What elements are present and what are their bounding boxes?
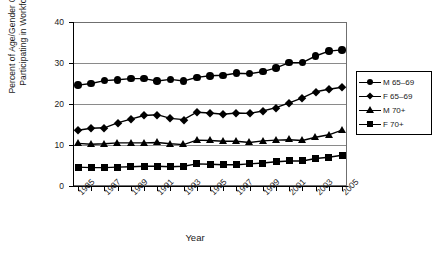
data-point bbox=[113, 139, 121, 146]
data-point bbox=[166, 140, 174, 147]
data-point bbox=[325, 154, 332, 161]
legend-marker bbox=[367, 79, 373, 85]
data-point bbox=[312, 155, 319, 162]
data-point bbox=[207, 161, 214, 168]
legend-marker-triangle-icon bbox=[359, 104, 381, 116]
legend-item: F 65–69 bbox=[359, 89, 428, 103]
legend-marker bbox=[367, 121, 373, 127]
data-point bbox=[338, 126, 346, 133]
data-point bbox=[325, 131, 333, 138]
legend-item: M 65–69 bbox=[359, 75, 428, 89]
legend-label: F 70+ bbox=[381, 120, 404, 129]
legend-item: F 70+ bbox=[359, 117, 428, 131]
legend-marker-square-icon bbox=[359, 118, 381, 130]
data-point bbox=[233, 69, 241, 77]
data-point bbox=[219, 137, 227, 144]
data-point bbox=[127, 75, 135, 83]
data-point bbox=[339, 152, 346, 159]
data-point bbox=[127, 163, 134, 170]
data-point bbox=[100, 140, 108, 147]
data-point bbox=[232, 137, 240, 144]
data-point bbox=[74, 81, 82, 89]
legend-marker bbox=[366, 93, 373, 100]
data-point bbox=[153, 138, 161, 145]
legend-marker bbox=[366, 106, 374, 113]
x-axis-title: Year bbox=[0, 232, 390, 243]
data-point bbox=[88, 164, 95, 171]
data-point bbox=[298, 136, 306, 143]
data-point bbox=[233, 161, 240, 168]
legend: M 65–69F 65–69M 70+F 70+ bbox=[356, 71, 432, 135]
data-point bbox=[193, 74, 201, 82]
data-point bbox=[246, 160, 253, 167]
data-point bbox=[338, 46, 346, 54]
data-point bbox=[179, 140, 187, 147]
legend-marker-circle-icon bbox=[359, 76, 381, 88]
data-point bbox=[285, 135, 293, 142]
data-point bbox=[259, 160, 266, 167]
data-point bbox=[286, 157, 293, 164]
legend-marker-diamond-icon bbox=[359, 90, 381, 102]
data-point bbox=[167, 163, 174, 170]
data-point bbox=[259, 137, 267, 144]
data-point bbox=[154, 163, 161, 170]
data-point bbox=[299, 157, 306, 164]
data-point bbox=[75, 164, 82, 171]
chart-figure: Percent of Age/Gender Group Participatin… bbox=[0, 0, 438, 258]
data-point bbox=[127, 139, 135, 146]
data-point bbox=[193, 160, 200, 167]
data-point bbox=[245, 138, 253, 145]
data-point bbox=[74, 139, 82, 146]
data-point bbox=[114, 76, 122, 84]
data-point bbox=[311, 133, 319, 140]
data-point bbox=[259, 68, 267, 76]
legend-item: M 70+ bbox=[359, 103, 428, 117]
data-point bbox=[141, 163, 148, 170]
data-point bbox=[140, 139, 148, 146]
data-point bbox=[325, 47, 333, 55]
data-point bbox=[220, 161, 227, 168]
data-point bbox=[272, 136, 280, 143]
data-point bbox=[272, 64, 280, 72]
data-point bbox=[219, 72, 227, 80]
data-point bbox=[180, 163, 187, 170]
legend-label: M 65–69 bbox=[381, 78, 414, 87]
data-point bbox=[193, 136, 201, 143]
data-point bbox=[206, 72, 214, 80]
data-point bbox=[206, 136, 214, 143]
data-point bbox=[114, 164, 121, 171]
data-point bbox=[101, 164, 108, 171]
legend-label: F 65–69 bbox=[381, 92, 412, 101]
data-point bbox=[153, 77, 161, 85]
legend-label: M 70+ bbox=[381, 106, 405, 115]
data-point bbox=[273, 158, 280, 165]
data-point bbox=[87, 140, 95, 147]
data-point bbox=[140, 75, 148, 83]
